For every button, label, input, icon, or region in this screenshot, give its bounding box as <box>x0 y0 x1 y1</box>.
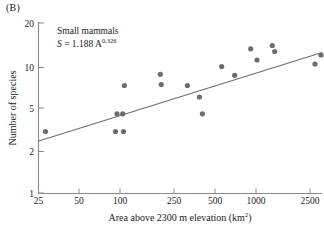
svg-text:Area above 2300 m elevation (k: Area above 2300 m elevation (km2) <box>109 211 252 224</box>
data-points <box>43 43 324 134</box>
data-point <box>312 61 317 66</box>
y-axis-ticks <box>39 23 45 193</box>
y-tick-label-5: 5 <box>29 104 34 114</box>
y-axis-title: Number of species <box>7 70 18 145</box>
data-point <box>254 57 259 62</box>
data-point <box>185 83 190 88</box>
data-point <box>159 82 164 87</box>
regression-line <box>38 53 322 142</box>
annotation-line-1: Small mammals <box>57 26 119 36</box>
x-tick-label-100: 100 <box>113 196 128 206</box>
data-point <box>318 52 323 57</box>
x-tick-label-1000: 1000 <box>247 196 266 206</box>
data-point <box>158 72 163 77</box>
data-point <box>219 64 224 69</box>
x-tick-label-50: 50 <box>74 196 84 206</box>
data-point <box>272 49 277 54</box>
data-point <box>122 83 127 88</box>
figure-panel-b: (B) 20 10 5 2 1 25 50 100 <box>0 0 324 234</box>
y-tick-label-20: 20 <box>25 19 35 29</box>
data-point <box>248 46 253 51</box>
y-tick-label-10: 10 <box>25 63 35 73</box>
x-tick-label-500: 500 <box>208 196 223 206</box>
x-tick-label-250: 250 <box>167 196 182 206</box>
x-tick-label-25: 25 <box>34 196 44 206</box>
data-point <box>120 111 125 116</box>
data-point <box>113 129 118 134</box>
x-axis-title-main: Area above 2300 m elevation (km <box>109 212 246 224</box>
data-point <box>114 111 119 116</box>
svg-text:S = 1.188 A0.326: S = 1.188 A0.326 <box>57 37 117 49</box>
data-point <box>270 43 275 48</box>
data-point <box>200 111 205 116</box>
y-tick-label-2: 2 <box>29 147 34 157</box>
annotation-equation-body: = 1.188 A <box>62 39 102 49</box>
x-axis-ticks <box>39 189 311 194</box>
data-point <box>232 73 237 78</box>
annotation-equation-exponent: 0.326 <box>102 37 117 44</box>
annotation-line-2: S = 1.188 A0.326 <box>57 37 117 49</box>
data-point <box>43 129 48 134</box>
x-axis-title-close: ) <box>248 212 251 224</box>
x-axis-title: Area above 2300 m elevation (km2) <box>109 211 252 224</box>
data-point <box>121 129 126 134</box>
x-tick-label-2500: 2500 <box>301 196 320 206</box>
scatter-chart: 20 10 5 2 1 25 50 100 250 500 1000 2500 … <box>0 0 324 234</box>
data-point <box>197 94 202 99</box>
